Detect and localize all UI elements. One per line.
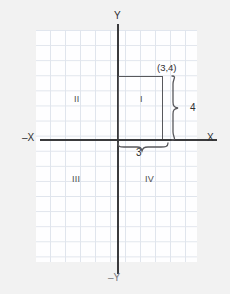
dimension-label-height: 4 xyxy=(190,102,196,113)
x-axis-negative-label: –X xyxy=(22,132,34,143)
quadrant-label-3: III xyxy=(72,174,80,184)
dimension-label-width: 3 xyxy=(136,147,142,158)
quadrant-label-4: IV xyxy=(145,174,154,184)
x-axis-positive-label: X xyxy=(207,132,214,143)
point-coordinate-label: (3,4) xyxy=(157,62,177,73)
y-axis-line xyxy=(117,24,119,274)
y-axis-negative-label: –Y xyxy=(108,272,120,283)
coordinate-plane-diagram: –X X Y –Y I II III IV (3,4) 4 3 xyxy=(0,0,230,294)
quadrant-label-2: II xyxy=(74,94,80,104)
y-axis-positive-label: Y xyxy=(114,10,121,21)
x-axis-line xyxy=(40,139,217,141)
plotted-rectangle xyxy=(118,76,163,139)
